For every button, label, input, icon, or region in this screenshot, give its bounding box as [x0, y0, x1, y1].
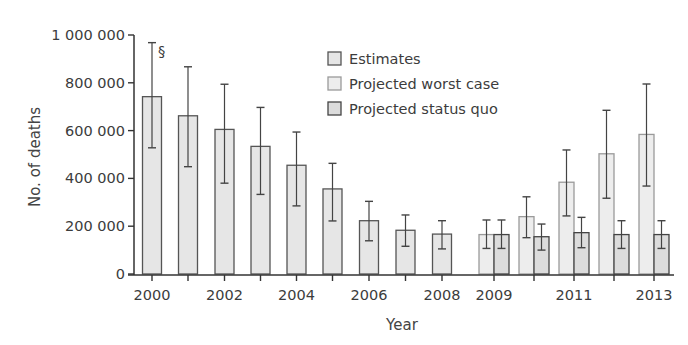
y-tick-label: 0 — [116, 266, 125, 282]
x-tick-label: 2013 — [636, 287, 673, 303]
legend: EstimatesProjected worst caseProjected s… — [328, 51, 499, 117]
bar-chart: 0200 000400 000600 000800 0001 000 00020… — [0, 0, 688, 345]
legend-item: Estimates — [328, 51, 421, 67]
y-tick-label: 400 000 — [65, 170, 125, 186]
legend-item: Projected status quo — [328, 101, 498, 117]
y-tick-label: 600 000 — [65, 123, 125, 139]
legend-swatch — [328, 77, 341, 90]
x-axis-title: Year — [385, 316, 419, 334]
legend-label: Projected status quo — [349, 101, 498, 117]
y-tick-label: 800 000 — [65, 75, 125, 91]
y-tick-label: 200 000 — [65, 218, 125, 234]
x-tick-label: 2006 — [351, 287, 388, 303]
legend-label: Estimates — [349, 51, 421, 67]
x-tick-label: 2000 — [134, 287, 171, 303]
x-tick-label: 2004 — [278, 287, 315, 303]
legend-swatch — [328, 52, 341, 65]
significance-annotation: § — [158, 43, 165, 59]
y-tick-label: 1 000 000 — [51, 27, 125, 43]
y-axis-title: No. of deaths — [26, 107, 44, 207]
x-tick-label: 2009 — [476, 287, 513, 303]
legend-label: Projected worst case — [349, 76, 499, 92]
legend-item: Projected worst case — [328, 76, 499, 92]
x-tick-label: 2011 — [556, 287, 593, 303]
x-tick-label: 2008 — [424, 287, 461, 303]
legend-swatch — [328, 102, 341, 115]
x-tick-label: 2002 — [206, 287, 243, 303]
